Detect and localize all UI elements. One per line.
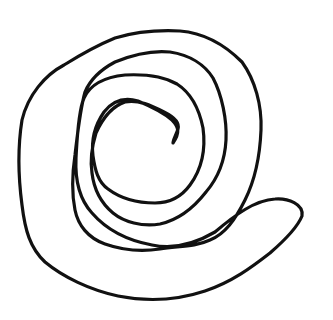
spiral-outline bbox=[19, 31, 302, 300]
spiral-svg bbox=[0, 0, 333, 320]
spiral-figure bbox=[0, 0, 333, 320]
